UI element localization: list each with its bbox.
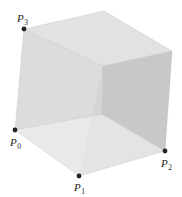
control-point-p0 [13,128,18,133]
label-p2: P2 [160,157,172,172]
control-point-p2 [163,149,168,154]
control-point-p1 [77,174,82,179]
label-p0: P0 [9,136,21,151]
label-p3: P3 [16,12,28,27]
label-p1: P1 [73,181,85,196]
cube-diagram: P0P1P2P3 [0,0,182,197]
control-point-p3 [22,27,27,32]
